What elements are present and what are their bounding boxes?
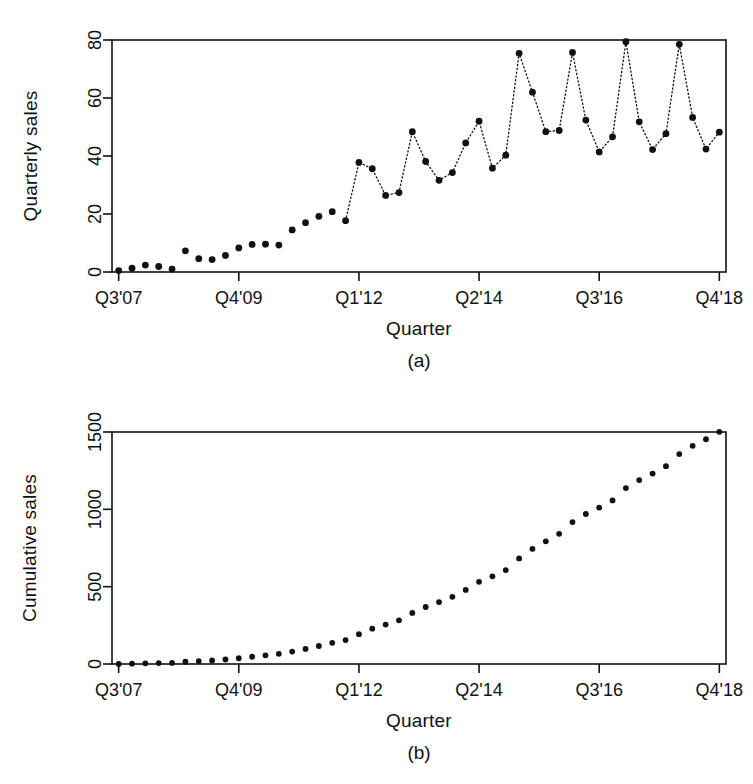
chart-a-x-axis-title: Quarter: [43, 318, 753, 340]
y-tick-label: 20: [85, 204, 105, 224]
data-point: [703, 436, 709, 442]
data-point: [423, 604, 429, 610]
x-tick-label: Q2'14: [455, 288, 502, 308]
data-point: [249, 654, 255, 660]
data-point: [449, 169, 456, 176]
data-point: [356, 631, 362, 637]
figure-quarterly-and-cumulative-sales: 020406080Q3'07Q4'09Q1'12Q2'14Q3'16Q4'18 …: [0, 0, 753, 784]
x-tick-label: Q3'07: [95, 288, 142, 308]
data-point: [156, 660, 162, 666]
y-tick-label: 80: [85, 30, 105, 50]
data-point: [663, 130, 670, 137]
x-tick-label: Q4'09: [215, 288, 262, 308]
panel-a-caption: (a): [43, 350, 753, 372]
data-point: [329, 208, 336, 215]
data-point: [716, 129, 723, 136]
y-tick-label: 1000: [85, 489, 105, 529]
data-point: [556, 127, 563, 134]
data-point: [436, 599, 442, 605]
x-tick-label: Q4'09: [215, 680, 262, 700]
data-point: [169, 660, 175, 666]
chart-b-y-axis-title: Cumulative sales: [18, 474, 42, 622]
data-point: [169, 266, 176, 273]
data-point: [462, 140, 469, 147]
data-point: [476, 579, 482, 585]
x-tick-label: Q4'18: [696, 288, 743, 308]
data-point: [409, 128, 416, 135]
data-point: [529, 89, 536, 96]
data-point: [583, 511, 589, 517]
data-point: [703, 146, 710, 153]
data-point: [343, 637, 349, 643]
data-point: [276, 651, 282, 657]
data-point: [209, 256, 216, 263]
data-point: [530, 546, 536, 552]
data-point: [369, 165, 376, 172]
data-point: [356, 159, 363, 166]
data-point: [610, 497, 616, 503]
data-point: [303, 646, 309, 652]
data-point: [396, 617, 402, 623]
data-point: [129, 265, 136, 272]
data-point: [463, 587, 469, 593]
x-tick-label: Q2'14: [455, 680, 502, 700]
data-point: [622, 38, 629, 45]
data-point: [663, 463, 669, 469]
data-point: [503, 567, 509, 573]
x-tick-label: Q1'12: [335, 680, 382, 700]
y-tick-label: 0: [85, 267, 105, 277]
data-point: [542, 128, 549, 135]
data-point: [636, 118, 643, 125]
data-point: [636, 477, 642, 483]
x-tick-label: Q3'16: [575, 288, 622, 308]
data-point: [382, 192, 389, 199]
data-point: [142, 262, 149, 269]
data-point: [223, 657, 229, 663]
data-point: [676, 451, 682, 457]
data-point: [543, 538, 549, 544]
data-point: [516, 50, 523, 57]
data-point: [570, 519, 576, 525]
data-point: [302, 219, 309, 226]
panel-a: 020406080Q3'07Q4'09Q1'12Q2'14Q3'16Q4'18 …: [0, 0, 753, 392]
y-tick-label: 0: [85, 659, 105, 669]
data-point: [115, 267, 122, 274]
data-point: [690, 443, 696, 449]
data-point: [235, 245, 242, 252]
chart-b-x-axis-title: Quarter: [43, 710, 753, 732]
y-tick-label: 40: [85, 146, 105, 166]
data-point: [263, 652, 269, 658]
data-point: [556, 531, 562, 537]
panel-b: 050010001500Q3'07Q4'09Q1'12Q2'14Q3'16Q4'…: [0, 392, 753, 784]
data-point: [649, 146, 656, 153]
data-point: [383, 622, 389, 628]
data-point: [396, 189, 403, 196]
data-point: [502, 152, 509, 159]
data-point: [183, 659, 189, 665]
x-tick-label: Q3'16: [575, 680, 622, 700]
data-point: [369, 626, 375, 632]
data-point: [236, 655, 242, 661]
data-point: [596, 505, 602, 511]
x-tick-label: Q4'18: [696, 680, 743, 700]
data-point: [289, 227, 296, 234]
data-point: [316, 643, 322, 649]
data-point: [329, 640, 335, 646]
data-point: [196, 658, 202, 664]
data-point: [650, 471, 656, 477]
data-point: [436, 177, 443, 184]
data-point: [422, 158, 429, 165]
data-point: [409, 610, 415, 616]
data-point: [516, 556, 522, 562]
data-point: [155, 263, 162, 270]
data-point: [262, 241, 269, 248]
y-tick-label: 1500: [85, 412, 105, 452]
data-point: [676, 41, 683, 48]
data-point: [716, 429, 722, 435]
y-tick-label: 60: [85, 88, 105, 108]
data-point: [582, 117, 589, 124]
data-point: [116, 661, 122, 667]
data-point: [249, 241, 256, 248]
data-point: [489, 165, 496, 172]
data-point: [129, 661, 135, 667]
